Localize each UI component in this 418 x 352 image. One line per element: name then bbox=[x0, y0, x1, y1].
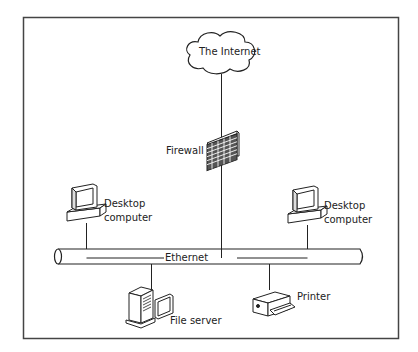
printer-label: Printer bbox=[297, 290, 330, 304]
firewall-label: Firewall bbox=[166, 144, 204, 158]
desktop-left-label-line2: computer bbox=[104, 211, 152, 225]
printer-icon bbox=[253, 292, 295, 316]
desktop-computer-icon bbox=[288, 186, 327, 223]
file-server-label: File server bbox=[170, 314, 222, 328]
desktop-right-label-line1: Desktop bbox=[324, 199, 365, 213]
ethernet-label: Ethernet bbox=[164, 253, 209, 263]
internet-label: The Internet bbox=[199, 45, 260, 59]
desktop-left-label-line1: Desktop bbox=[104, 197, 145, 211]
desktop-right-label-line2: computer bbox=[324, 213, 372, 227]
server-tower-icon bbox=[126, 287, 173, 328]
brick-wall-icon bbox=[207, 131, 239, 171]
desktop-computer-icon bbox=[67, 184, 106, 221]
